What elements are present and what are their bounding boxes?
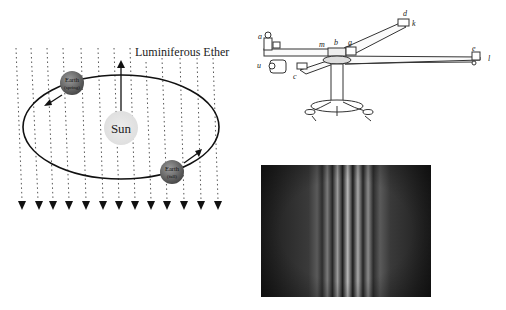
label-g: g [348, 38, 352, 47]
label-d: d [403, 9, 408, 18]
sun-label: Sun [111, 121, 132, 136]
ether-arrowheads [18, 201, 222, 210]
earth-fall-icon [160, 160, 184, 184]
fringe-svg [261, 165, 431, 297]
label-a: a [258, 32, 262, 41]
earth-fall-arrow [184, 153, 198, 163]
ether-orbit-diagram: Sun Luminiferous Ether Earth (spring) Ea… [0, 0, 250, 240]
interferometer-apparatus-drawing: a u m b g c d k e l [250, 0, 506, 140]
earth-spring-label: Earth [65, 76, 80, 83]
label-e: e [472, 44, 476, 53]
ether-title: Luminiferous Ether [135, 45, 229, 59]
earth-spring-season: (spring) [64, 85, 80, 90]
earth-fall-season: (fall) [167, 174, 177, 179]
label-m: m [319, 40, 325, 49]
ether-orbit-svg: Sun Luminiferous Ether Earth (spring) Ea… [0, 0, 250, 240]
label-u: u [257, 61, 261, 70]
label-l: l [488, 54, 491, 63]
interference-fringe-image [261, 165, 431, 297]
earth-spring-icon [60, 71, 84, 95]
label-b: b [334, 38, 338, 47]
earth-fall-label: Earth [165, 165, 180, 172]
apparatus-svg: a u m b g c d k e l [250, 0, 506, 140]
label-k: k [412, 19, 416, 28]
label-c: c [293, 72, 297, 81]
